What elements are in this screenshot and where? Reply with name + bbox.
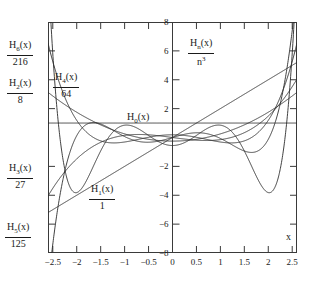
annotation-h2: H2(x) 8 xyxy=(7,77,33,105)
x-axis-label: x xyxy=(286,231,291,242)
x-tick-label: −1 xyxy=(112,257,138,267)
annotation-h2-denominator: 8 xyxy=(7,94,33,105)
annotation-h6: H6(x) 216 xyxy=(7,39,33,67)
y-tick-label: 8 xyxy=(155,17,169,27)
x-tick-label: 0.5 xyxy=(183,257,209,267)
y-tick-label: 6 xyxy=(155,46,169,56)
annotation-h4: H4(x) 64 xyxy=(53,71,79,99)
annotation-h1-numerator: H1(x) xyxy=(89,183,115,200)
x-tick-label: −2 xyxy=(64,257,90,267)
x-tick-label: 2.5 xyxy=(279,257,305,267)
y-tick-label: 4 xyxy=(155,75,169,85)
x-tick-label: 1 xyxy=(207,257,233,267)
y-axis-label-paren: (x) xyxy=(201,37,213,48)
y-tick-label: 2 xyxy=(155,104,169,114)
plot-area xyxy=(48,22,297,253)
annotation-h6-numerator: H6(x) xyxy=(7,39,33,56)
annotation-h0: H0(x) xyxy=(127,111,149,127)
y-axis-label-numerator: Hn(x) xyxy=(188,37,214,54)
x-tick-label: −2.5 xyxy=(40,257,66,267)
x-tick-label: 2 xyxy=(255,257,281,267)
annotation-h5-denominator: 125 xyxy=(5,238,31,249)
annotation-h1: H1(x) 1 xyxy=(89,183,115,211)
curves-svg xyxy=(48,22,297,253)
x-tick-label: −1.5 xyxy=(88,257,114,267)
hermite-polynomial-chart: −2.5−2−1.5−1−0.500.511.522.5 8642−2−4−6−… xyxy=(0,0,317,285)
annotation-h4-numerator: H4(x) xyxy=(53,71,79,88)
annotation-h5: H5(x) 125 xyxy=(5,221,31,249)
y-tick-label: −6 xyxy=(155,219,169,229)
y-axis-label: Hn(x) n3 xyxy=(188,37,214,67)
annotation-h2-numerator: H2(x) xyxy=(7,77,33,94)
x-tick-label: 0 xyxy=(160,257,186,267)
x-tick-label: 1.5 xyxy=(231,257,257,267)
y-axis-label-denominator: n3 xyxy=(188,54,214,67)
annotation-h5-numerator: H5(x) xyxy=(5,221,31,238)
annotation-h6-denominator: 216 xyxy=(7,56,33,67)
y-tick-label: −2 xyxy=(155,161,169,171)
y-tick-label: −4 xyxy=(155,190,169,200)
annotation-h3-denominator: 27 xyxy=(7,179,33,190)
annotation-h4-denominator: 64 xyxy=(53,88,79,99)
y-tick-label: −8 xyxy=(155,248,169,258)
annotation-h1-denominator: 1 xyxy=(89,200,115,211)
x-tick-label: −0.5 xyxy=(136,257,162,267)
annotation-h3-numerator: H3(x) xyxy=(7,162,33,179)
annotation-h3: H3(x) 27 xyxy=(7,162,33,190)
